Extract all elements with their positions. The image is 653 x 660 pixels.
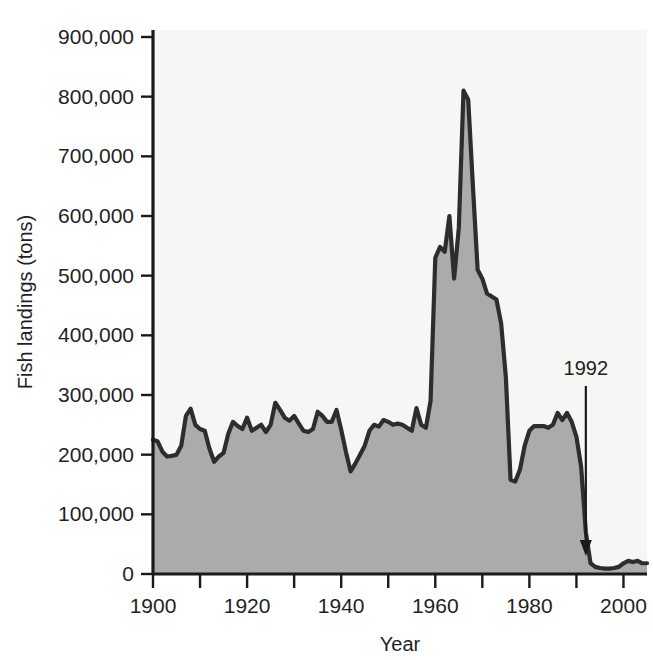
y-axis-title: Fish landings (tons): [14, 215, 36, 390]
x-tick-label: 1960: [412, 594, 459, 617]
chart-figure: 0100,000200,000300,000400,000500,000600,…: [0, 0, 653, 660]
x-axis-ticks: 190019201940196019802000: [130, 574, 647, 617]
y-tick-label: 400,000: [58, 323, 134, 346]
y-tick-label: 0: [122, 562, 134, 585]
y-tick-label: 100,000: [58, 502, 134, 525]
area-chart: 0100,000200,000300,000400,000500,000600,…: [0, 0, 653, 660]
x-tick-label: 2000: [600, 594, 647, 617]
x-tick-label: 1980: [506, 594, 553, 617]
x-axis-title: Year: [380, 633, 421, 655]
x-tick-label: 1900: [130, 594, 177, 617]
y-tick-label: 200,000: [58, 443, 134, 466]
x-tick-label: 1920: [224, 594, 271, 617]
annotation-label: 1992: [564, 357, 609, 379]
y-tick-label: 700,000: [58, 144, 134, 167]
y-tick-label: 300,000: [58, 383, 134, 406]
y-tick-label: 500,000: [58, 264, 134, 287]
y-tick-label: 600,000: [58, 204, 134, 227]
y-tick-label: 800,000: [58, 85, 134, 108]
y-axis-ticks: 0100,000200,000300,000400,000500,000600,…: [58, 25, 153, 585]
y-tick-label: 900,000: [58, 25, 134, 48]
x-tick-label: 1940: [318, 594, 365, 617]
